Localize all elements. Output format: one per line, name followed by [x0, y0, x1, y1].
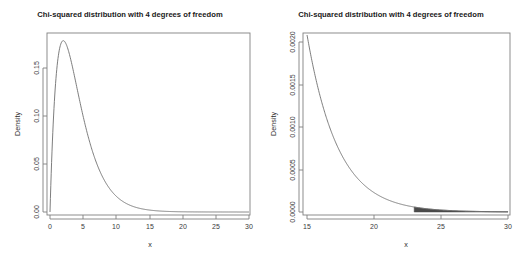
y-tick-label: 0.0015	[289, 74, 296, 96]
density-curve-left	[50, 41, 249, 212]
y-tick-label: 0.15	[33, 61, 40, 75]
plot-panel-right: Chi-squared distribution with 4 degrees …	[261, 0, 521, 262]
figure-canvas: Chi-squared distribution with 4 degrees …	[0, 0, 521, 262]
y-axis-tick-labels-right: 0.0000 0.0005 0.0010 0.0015 0.0020	[289, 31, 296, 223]
x-axis-label-right: x	[404, 240, 408, 249]
x-axis-tick-labels-right: 15 20 25 30	[303, 223, 512, 230]
x-tick-label: 25	[437, 223, 445, 230]
plot-panel-left: Chi-squared distribution with 4 degrees …	[0, 0, 260, 262]
x-tick-label: 20	[370, 223, 378, 230]
x-tick-label: 10	[112, 223, 120, 230]
y-tick-label: 0.0000	[289, 201, 296, 223]
x-tick-label: 5	[81, 223, 85, 230]
x-tick-label: 15	[303, 223, 311, 230]
x-axis-label-left: x	[148, 240, 152, 249]
y-tick-label: 0.05	[33, 157, 40, 171]
plot-svg-left: 0.00 0.05 0.10 0.15 0 5 10 15	[0, 0, 260, 262]
y-tick-label: 0.00	[33, 205, 40, 219]
plot-frame-left	[47, 33, 250, 215]
y-tick-label: 0.10	[33, 109, 40, 123]
x-axis-tick-labels-left: 0 5 10 15 20 25 30	[48, 223, 253, 230]
x-tick-label: 30	[504, 223, 512, 230]
y-axis-label-right: Density	[269, 112, 278, 136]
y-axis-ticks-right	[299, 42, 303, 212]
x-tick-label: 30	[245, 223, 253, 230]
x-tick-label: 0	[48, 223, 52, 230]
x-tick-label: 15	[146, 223, 154, 230]
x-tick-label: 20	[179, 223, 187, 230]
plot-frame-right	[303, 33, 510, 215]
y-axis-ticks-left	[43, 68, 47, 212]
x-tick-label: 25	[212, 223, 220, 230]
x-axis-ticks-right	[307, 215, 508, 219]
y-tick-label: 0.0010	[289, 116, 296, 138]
y-tick-label: 0.0020	[289, 31, 296, 53]
plot-svg-right: 0.0000 0.0005 0.0010 0.0015 0.0020 15 20…	[261, 0, 521, 262]
x-axis-ticks-left	[50, 215, 249, 219]
y-axis-label-left: Density	[13, 112, 22, 136]
y-tick-label: 0.0005	[289, 159, 296, 181]
y-axis-tick-labels-left: 0.00 0.05 0.10 0.15	[33, 61, 40, 219]
density-curve-right	[307, 35, 508, 212]
